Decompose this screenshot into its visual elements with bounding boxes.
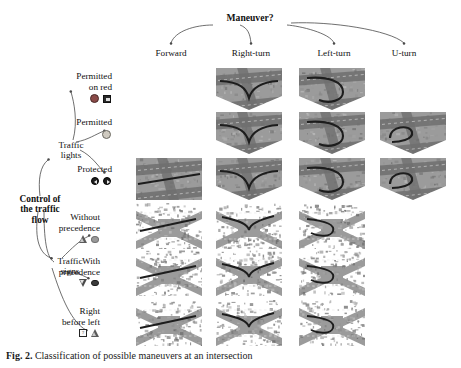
row-label-right-before-left: Right before left ? — [14, 306, 100, 337]
row-label-protected: Protected — [26, 164, 112, 185]
thumbnail-right-before-left-left-turn — [299, 300, 365, 346]
thumbnail-permitted-right-turn — [216, 112, 282, 154]
thumbnail-with-precedence-left-turn — [299, 250, 365, 296]
red-signal-icon — [90, 94, 99, 103]
thumbnail-right-before-left-right-turn — [216, 300, 282, 346]
branch-label-traffic-lights: Traffic lights — [40, 140, 102, 161]
thumbnail-permitted-left-turn — [299, 112, 365, 154]
figure-caption: Fig. 2. Classification of possible maneu… — [6, 350, 456, 366]
row-icons — [14, 235, 100, 243]
warning-triangle-icon — [91, 329, 99, 337]
row-icons — [26, 130, 112, 139]
row-label-text: Right before left — [14, 306, 100, 327]
column-header-u-turn: U-turn — [369, 48, 439, 58]
thumbnail-without-precedence-right-turn — [216, 203, 282, 249]
thumbnail-permitted-on-red-left-turn — [299, 68, 365, 110]
thumbnail-protected-right-turn — [216, 158, 282, 200]
round-sign-icon — [91, 236, 99, 243]
row-icons — [26, 177, 112, 185]
amber-signal-icon — [102, 130, 111, 139]
thumbnail-without-precedence-forward — [136, 203, 202, 249]
left-arrow-signal-icon — [91, 177, 99, 185]
square-sign-icon — [103, 95, 111, 103]
row-label-text: Permitted on red — [26, 71, 112, 92]
row-icons — [14, 279, 100, 287]
thumbnail-permitted-u-turn — [380, 112, 446, 154]
row-label-permitted: Permitted — [26, 117, 112, 139]
row-label-text: Protected — [26, 164, 112, 175]
column-header-left-turn: Left-turn — [299, 48, 369, 58]
thumbnail-with-precedence-forward — [136, 250, 202, 296]
column-header-right-turn: Right-turn — [216, 48, 286, 58]
priority-sign-icon — [91, 280, 99, 286]
thumbnail-protected-left-turn — [299, 158, 365, 200]
row-label-with-precedence: With precedence — [14, 256, 100, 287]
row-label-text: Without precedence — [14, 212, 100, 233]
right-arrow-signal-icon — [103, 177, 111, 185]
maneuver-header: Maneuver? — [205, 12, 295, 23]
row-label-without-precedence: Without precedence — [14, 212, 100, 243]
row-label-permitted-on-red: Permitted on red — [26, 71, 112, 103]
row-label-text: Permitted — [26, 117, 112, 128]
warning-triangle-icon — [79, 235, 87, 243]
caption-text: Classification of possible maneuvers at … — [32, 350, 252, 361]
column-header-forward: Forward — [136, 48, 206, 58]
yield-triangle-icon — [79, 279, 87, 287]
row-icons: ? — [14, 329, 100, 337]
row-label-text: With precedence — [14, 256, 100, 277]
thumbnail-protected-forward — [136, 158, 202, 200]
thumbnail-right-before-left-forward — [136, 300, 202, 346]
row-icons — [26, 94, 112, 103]
figure-root: Maneuver? Forward Right-turn Left-turn U… — [0, 0, 461, 368]
question-sign-icon: ? — [79, 329, 87, 337]
caption-prefix: Fig. 2. — [6, 350, 32, 361]
thumbnail-permitted-on-red-right-turn — [216, 68, 282, 110]
thumbnail-without-precedence-left-turn — [299, 203, 365, 249]
thumbnail-protected-u-turn — [380, 158, 446, 200]
thumbnail-with-precedence-right-turn — [216, 250, 282, 296]
